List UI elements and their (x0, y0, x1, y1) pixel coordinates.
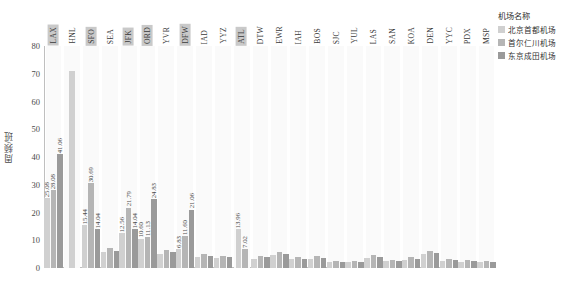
bar (314, 256, 320, 268)
bar-group (157, 46, 176, 268)
chart-root: 周频/班 01020304050607080 LAXHNLSFOSEAJFKOR… (0, 0, 583, 292)
bar (333, 261, 339, 268)
group-background-band (422, 46, 438, 268)
x-axis-tick-lax: LAX (48, 25, 59, 46)
bar (345, 262, 351, 268)
legend-label: 北京首都机场 (508, 24, 556, 35)
bar (358, 262, 364, 268)
bar: 7.02 (242, 249, 248, 268)
group-background-band (158, 46, 174, 268)
bar-group: 12.5621.7914.04 (119, 46, 138, 268)
group-background-band (271, 46, 287, 268)
legend-item[interactable]: 首尔仁川机场 (498, 37, 582, 48)
bar-value-label: 21.06 (188, 193, 195, 208)
bar (477, 262, 483, 268)
group-background-band (309, 46, 325, 268)
bar (396, 261, 402, 268)
y-axis-tick: 70 (32, 69, 41, 79)
legend-item[interactable]: 北京首都机场 (498, 24, 582, 35)
x-axis-tick-cell: IAD (195, 4, 214, 46)
bar (440, 261, 446, 268)
bar-group (251, 46, 270, 268)
bar (327, 262, 333, 268)
bar: 15.44 (82, 225, 88, 268)
y-axis-tick: 40 (32, 152, 41, 162)
x-axis-tick-yyz: YYZ (218, 25, 229, 46)
bar (421, 254, 427, 268)
group-background-band (403, 46, 419, 268)
bar: 28.08 (51, 190, 57, 268)
bar-group (326, 46, 345, 268)
x-axis-tick-cell: LAX (44, 4, 63, 46)
bar-group (308, 46, 327, 268)
bar (101, 252, 107, 268)
x-axis-tick-ewr: EWR (274, 24, 285, 46)
bar-value-label: 14.04 (94, 213, 101, 228)
legend-item[interactable]: 东京成田机场 (498, 50, 582, 61)
x-axis-tick-sea: SEA (105, 27, 116, 46)
y-axis-tick: 0 (36, 263, 40, 273)
bar-value-label: 28.08 (50, 174, 57, 189)
bar (107, 248, 113, 268)
bar (471, 261, 477, 268)
legend-label: 东京成田机场 (508, 50, 556, 61)
x-axis-tick-las: LAS (368, 27, 379, 46)
bar: 6.83 (176, 249, 182, 268)
bar-group (100, 46, 119, 268)
bar (308, 259, 314, 268)
bar-group (364, 46, 383, 268)
bar (214, 258, 220, 268)
group-background-band (290, 46, 306, 268)
group-background-band (441, 46, 457, 268)
x-axis-tick-iad: IAD (199, 28, 210, 46)
bar (446, 259, 452, 268)
bar-value-label: 11.60 (182, 220, 189, 235)
bar-group: 25.0828.0841.06 (44, 46, 63, 268)
bar (302, 259, 308, 268)
x-axis-tick-dfw: DFW (180, 24, 191, 46)
bar-value-label: 41.06 (57, 138, 64, 153)
x-axis-tick-cell: SEA (100, 4, 119, 46)
bar (434, 253, 440, 268)
x-axis-tick-cell: YYZ (213, 4, 232, 46)
bar (289, 259, 295, 268)
bar (220, 256, 226, 268)
bar (277, 252, 283, 268)
x-axis-tick-koa: KOA (406, 25, 417, 46)
legend-items: 北京首都机场首尔仁川机场东京成田机场 (498, 24, 582, 61)
bar (383, 261, 389, 268)
x-axis-tick-yyc: YYC (444, 25, 455, 46)
bar-groups: 25.0828.0841.0615.4430.6914.0412.5621.79… (44, 46, 496, 268)
bar (490, 262, 496, 268)
bar (195, 257, 201, 268)
y-axis-tick: 50 (32, 124, 41, 134)
x-axis-tick-cell: SJC (326, 4, 345, 46)
x-axis-tick-cell: PDX (458, 4, 477, 46)
bar (321, 258, 327, 268)
bar-value-label: 21.79 (125, 191, 132, 206)
x-axis-tick-cell: JFK (119, 4, 138, 46)
bar (283, 254, 289, 268)
x-axis-tick-cell: IAH (289, 4, 308, 46)
legend-label: 首尔仁川机场 (508, 37, 556, 48)
x-axis-tick-cell: DFW (176, 4, 195, 46)
bar (201, 254, 207, 268)
bar-group (213, 46, 232, 268)
bar: 25.08 (44, 198, 50, 268)
x-axis-tick-cell: YYC (439, 4, 458, 46)
y-axis-tick: 30 (32, 180, 41, 190)
x-axis-tick-cell: ATL (232, 4, 251, 46)
x-axis-tick-atl: ATL (236, 27, 247, 46)
bar: 11.60 (182, 236, 188, 268)
x-axis-tick-cell: EWR (270, 4, 289, 46)
bar: 41.06 (57, 154, 63, 268)
bar (164, 250, 170, 268)
group-background-band (196, 46, 212, 268)
bar: 24.83 (151, 199, 157, 268)
bar-value-label: 12.56 (119, 217, 126, 232)
bar-value-label: 30.69 (88, 167, 95, 182)
x-axis-tick-cell: DEN (421, 4, 440, 46)
group-background-band (479, 46, 495, 268)
bar (170, 252, 176, 268)
legend-title: 机场名称 (498, 9, 582, 21)
